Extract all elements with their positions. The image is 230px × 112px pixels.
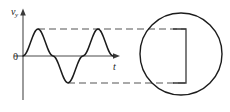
- x-axis-label: t: [113, 62, 116, 72]
- physics-figure: vy 0 t: [0, 0, 230, 112]
- origin-label: 0: [13, 52, 18, 62]
- x-axis-arrowhead: [113, 53, 120, 59]
- y-axis-label-subscript: y: [15, 11, 18, 19]
- rectangular-pulse-bracket: [173, 29, 186, 83]
- y-axis-label: vy: [11, 7, 18, 19]
- figure-canvas: [0, 0, 230, 112]
- y-axis-arrowhead: [20, 9, 26, 16]
